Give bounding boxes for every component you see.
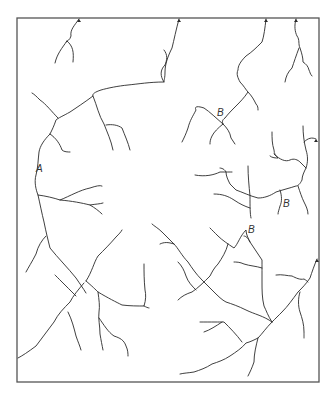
- stream-east-trib2: [298, 186, 308, 214]
- stream-x-ne: [86, 230, 122, 281]
- outlet-arrow-icon: [294, 19, 298, 22]
- label-b2: B: [283, 198, 290, 209]
- stream-east-main: [220, 126, 308, 198]
- stream-west-trib6: [26, 236, 46, 272]
- stream-west-trib2: [93, 96, 130, 150]
- stream-ne-main: [222, 19, 266, 124]
- stream-x-s: [98, 292, 128, 356]
- stream-x-sw-trib: [55, 275, 81, 350]
- outlet-arrow-icon: [314, 139, 318, 142]
- outlet-arrow-icon: [264, 19, 268, 22]
- stream-se-cross: [178, 244, 228, 300]
- stream-east-b2: [278, 190, 282, 214]
- stream-se-main: [180, 259, 317, 374]
- stream-west-trib5: [38, 186, 103, 214]
- label-b3: B: [248, 224, 255, 235]
- stream-ne-b1-trib: [182, 107, 235, 144]
- stream-west-arc: [35, 19, 179, 293]
- stream-west-trib4: [50, 134, 70, 152]
- stream-x-se: [86, 264, 149, 308]
- stream-se-trib1: [276, 275, 308, 338]
- stream-west-trib3: [32, 93, 58, 118]
- stream-east-trib1: [270, 132, 306, 168]
- stream-east-outlet: [304, 138, 316, 142]
- stream-ne-right: [285, 19, 312, 82]
- stream-east-trib3: [195, 166, 251, 218]
- outlet-arrow-icon: [177, 19, 181, 22]
- label-a: A: [36, 163, 43, 174]
- stream-top-left: [55, 19, 79, 63]
- stream-se-trib2: [200, 322, 258, 376]
- label-b1: B: [217, 107, 224, 118]
